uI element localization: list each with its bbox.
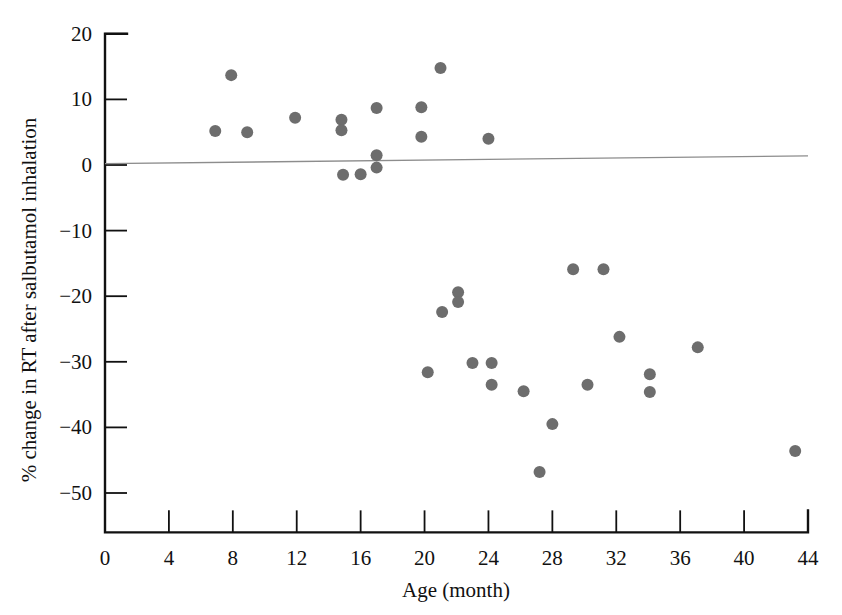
data-point	[613, 331, 625, 343]
data-point	[546, 418, 558, 430]
x-tick-label: 24	[478, 546, 500, 570]
y-tick-label: 0	[82, 153, 93, 177]
plot-canvas: 20100−10−20−30−40−50 0481216202428323640…	[0, 0, 842, 615]
x-tick-label: 4	[164, 546, 175, 570]
y-tick-label: 20	[71, 22, 92, 46]
scatter-plot-figure: 20100−10−20−30−40−50 0481216202428323640…	[0, 0, 842, 615]
data-points	[209, 62, 801, 478]
data-point	[644, 386, 656, 398]
x-axis-ticks: 048121620242832364044	[100, 510, 819, 570]
x-tick-label: 16	[350, 546, 371, 570]
data-point	[435, 62, 447, 74]
data-point	[371, 162, 383, 174]
data-point	[644, 368, 656, 380]
data-point	[534, 466, 546, 478]
data-point	[209, 125, 221, 137]
x-tick-label: 20	[414, 546, 435, 570]
y-tick-label: −40	[59, 415, 92, 439]
data-point	[486, 379, 498, 391]
y-tick-label: −50	[59, 481, 92, 505]
data-point	[371, 102, 383, 114]
chart-page: 20100−10−20−30−40−50 0481216202428323640…	[0, 0, 842, 615]
x-tick-label: 44	[798, 546, 820, 570]
data-point	[486, 357, 498, 369]
y-axis-title: % change in RT after salbutamol inhalati…	[17, 117, 41, 482]
data-point	[518, 385, 530, 397]
data-point	[371, 149, 383, 161]
data-point	[436, 306, 448, 318]
y-tick-label: −10	[59, 219, 92, 243]
data-point	[415, 101, 427, 113]
data-point	[225, 69, 237, 81]
data-point	[335, 124, 347, 136]
data-point	[482, 133, 494, 145]
data-point	[241, 126, 253, 138]
data-point	[597, 263, 609, 275]
data-point	[466, 357, 478, 369]
y-axis-ticks: 20100−10−20−30−40−50	[59, 22, 127, 505]
data-point	[422, 366, 434, 378]
data-point	[452, 296, 464, 308]
trend-line	[105, 156, 808, 164]
data-point	[335, 114, 347, 126]
x-tick-label: 40	[734, 546, 755, 570]
y-tick-label: −20	[59, 284, 92, 308]
data-point	[582, 379, 594, 391]
x-tick-label: 28	[542, 546, 563, 570]
x-tick-label: 8	[228, 546, 239, 570]
data-point	[337, 169, 349, 181]
data-point	[415, 131, 427, 143]
x-tick-label: 12	[286, 546, 307, 570]
data-point	[567, 263, 579, 275]
x-tick-label: 36	[670, 546, 691, 570]
data-point	[789, 445, 801, 457]
y-tick-label: 10	[71, 87, 92, 111]
y-tick-label: −30	[59, 350, 92, 374]
x-tick-label: 0	[100, 546, 111, 570]
axis-frame	[105, 34, 808, 533]
x-tick-label: 32	[606, 546, 627, 570]
data-point	[692, 341, 704, 353]
data-point	[289, 112, 301, 124]
x-axis-title: Age (month)	[402, 578, 510, 602]
data-point	[355, 168, 367, 180]
